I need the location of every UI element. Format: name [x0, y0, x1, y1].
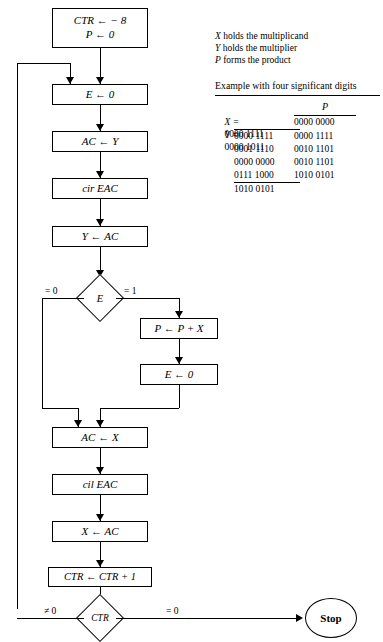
example-row-1-right: 0000 0000 [294, 116, 334, 129]
arrowhead-ac-y-to-cir [96, 171, 104, 178]
edge-label-e-zero: = 0 [45, 286, 57, 296]
node-y-store: Y ← AC [52, 226, 148, 247]
arrowhead-e-zero-merge [74, 420, 82, 427]
arrowhead-clear-e2-merge [96, 420, 104, 427]
arrowhead-ac-x-to-cil [96, 467, 104, 474]
edge-e-one-horizontal [116, 298, 179, 299]
arrowhead-loopback [66, 77, 74, 84]
example-row-2: 0000 1111 [234, 130, 273, 143]
node-cir-eac: cir EAC [52, 178, 148, 199]
arrowhead-ctr-zero-to-stop [296, 614, 303, 622]
node-ac-load-x: AC ← X [52, 427, 148, 448]
edge-label-ctr-zero: = 0 [166, 606, 178, 616]
edge-label-ctr-nonzero: ≠ 0 [44, 606, 56, 616]
edge-label-e-one: = 1 [124, 286, 136, 296]
legend-text-p: forms the product [221, 55, 291, 65]
example-column-header-p: P [290, 101, 360, 112]
example-row-5-right: 1010 0101 [294, 169, 334, 182]
arrowhead-x-store-to-incr [96, 560, 104, 567]
edge-e-zero-horizontal [42, 298, 84, 299]
example-row-3: 0001 1110 [234, 143, 274, 156]
edge-ctr-zero-horizontal [116, 618, 301, 619]
arrowhead-init-to-clear-e [96, 77, 104, 84]
example-row-4: 0000 0000 [234, 156, 274, 169]
node-incr-ctr: CTR ← CTR + 1 [48, 567, 152, 587]
node-x-store: X ← AC [52, 521, 148, 542]
node-ac-load-y: AC ← Y [52, 131, 148, 152]
edge-loopback-top [17, 63, 70, 64]
example-title: Example with four significant digits [215, 80, 357, 91]
legend-line-2: P forms the product [215, 54, 291, 67]
legend-line-1: Y holds the multiplier [215, 42, 297, 55]
legend-text-x: holds the multiplicand [221, 31, 308, 41]
example-row-5: 0111 1000 [234, 169, 274, 182]
node-clear-e: E ← 0 [52, 84, 148, 105]
legend-text-y: holds the multiplier [220, 43, 297, 53]
node-stop: Stop [305, 598, 357, 638]
edge-clear-e2-down [179, 385, 180, 408]
legend-line-0: X holds the multiplicand [215, 30, 308, 43]
example-row-3-right: 0010 1101 [294, 143, 334, 156]
arrowhead-e-one-to-add-x [175, 311, 183, 318]
edge-e-zero-merge [42, 408, 78, 409]
edge-loopback-vertical [17, 63, 18, 609]
edge-clear-e2-merge [100, 408, 179, 409]
example-row-2-right: 0000 1111 [294, 130, 333, 143]
node-init: CTR ← − 8 P ← 0 [52, 8, 148, 48]
node-add-x: P ← P + X [140, 318, 218, 339]
arrowhead-clear-e-to-ac-y [96, 124, 104, 131]
node-clear-e2: E ← 0 [140, 364, 218, 385]
edge-e-zero-vertical [42, 298, 43, 408]
edge-ctr-nonzero-horizontal [17, 618, 84, 619]
example-row-4-right: 0010 1101 [294, 156, 334, 169]
arrowhead-cir-to-y-store [96, 219, 104, 226]
example-row-6: 1010 0101 [234, 183, 274, 196]
arrowhead-cil-to-x-store [96, 514, 104, 521]
node-cil-eac: cil EAC [52, 474, 148, 495]
arrowhead-add-x-to-clear-e2 [175, 357, 183, 364]
example-title-rule [215, 95, 380, 96]
